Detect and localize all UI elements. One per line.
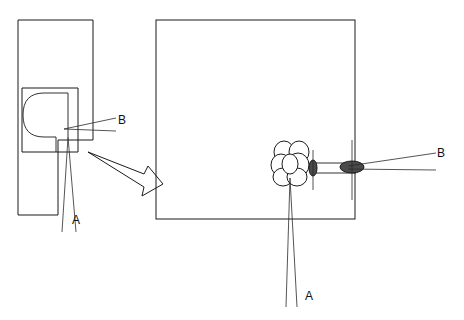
- right-view-group: B A: [156, 20, 445, 307]
- left-b-leader-lower: [64, 129, 116, 131]
- figure-root: B A: [0, 0, 464, 320]
- right-label-b: B: [437, 146, 445, 160]
- right-label-a: A: [305, 289, 313, 303]
- right-b-leader-upper: [348, 153, 436, 166]
- left-label-a: A: [72, 213, 80, 227]
- left-label-b: B: [118, 113, 126, 127]
- right-a-leader-left: [290, 178, 297, 307]
- bubble-core: [282, 154, 298, 174]
- left-a-leader-left: [62, 137, 68, 232]
- right-frame-outline: [156, 20, 355, 219]
- left-d-profile-shape: [23, 93, 68, 152]
- left-outer-body-outline: [18, 20, 93, 215]
- magnify-arrow-icon: [88, 152, 163, 196]
- left-view-group: B A: [18, 20, 126, 232]
- left-b-leader-upper: [64, 118, 116, 129]
- diagram-canvas: B A: [0, 0, 464, 320]
- right-a-leader-right: [286, 178, 290, 307]
- left-inner-chamber-outline: [22, 88, 78, 152]
